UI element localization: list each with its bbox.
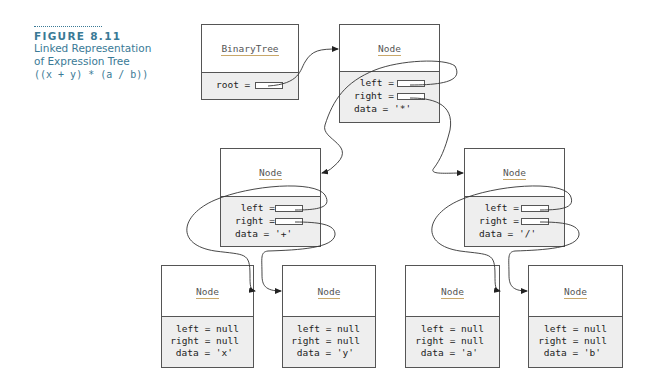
- link-div-right: [509, 222, 579, 291]
- pointer-links: [0, 0, 657, 390]
- link-plus-left: [187, 186, 327, 291]
- link-plus-right: [262, 222, 335, 291]
- link-root: [268, 49, 338, 86]
- link-root-left: [322, 61, 457, 173]
- link-div-left: [432, 186, 572, 291]
- link-root-right: [410, 98, 463, 173]
